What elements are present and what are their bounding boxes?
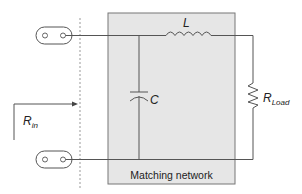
capacitor-label: C — [150, 93, 159, 107]
matching-network-label: Matching network — [130, 169, 213, 181]
matching-network-box — [108, 13, 235, 184]
inductor-label: L — [183, 16, 190, 30]
circuit-diagram: L C RLoad Rin Matching network — [0, 0, 302, 194]
load-resistance-label: RLoad — [263, 91, 290, 107]
arrowhead-icon — [72, 102, 78, 107]
resistor-icon — [248, 83, 258, 108]
input-resistance-label: Rin — [23, 114, 38, 130]
